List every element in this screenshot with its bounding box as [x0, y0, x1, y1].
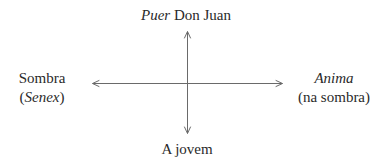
axes-arrows — [0, 0, 386, 164]
